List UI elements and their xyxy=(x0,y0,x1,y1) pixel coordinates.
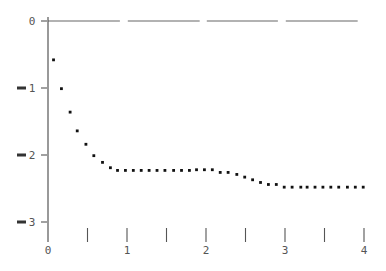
data-point xyxy=(69,111,72,114)
data-point xyxy=(116,169,119,172)
y-tick-label: 2 xyxy=(29,149,36,162)
chart-plot: 0123 01234 xyxy=(0,0,386,271)
data-point xyxy=(92,154,95,157)
data-point xyxy=(172,169,175,172)
data-points xyxy=(52,58,364,188)
minus-sign xyxy=(17,87,26,90)
data-point xyxy=(329,186,332,189)
data-point xyxy=(346,186,349,189)
y-axis-ticks: 0123 xyxy=(17,15,47,229)
y-tick-label: 0 xyxy=(29,15,36,28)
minus-sign xyxy=(17,154,26,157)
data-point xyxy=(109,166,112,169)
data-point xyxy=(362,186,365,189)
data-point xyxy=(211,168,214,171)
data-point xyxy=(76,129,79,132)
data-point xyxy=(283,186,286,189)
x-axis-ticks: 01234 xyxy=(45,228,368,257)
x-tick-label: 1 xyxy=(124,244,131,257)
x-tick-label: 3 xyxy=(282,244,289,257)
y-tick-label: 3 xyxy=(29,216,36,229)
y-tick-label: 1 xyxy=(29,82,36,95)
data-point xyxy=(299,186,302,189)
data-point xyxy=(227,171,230,174)
data-point xyxy=(259,181,262,184)
data-point xyxy=(291,186,294,189)
data-point xyxy=(219,171,222,174)
data-point xyxy=(60,87,63,90)
data-point xyxy=(354,186,357,189)
data-point xyxy=(322,186,325,189)
data-point xyxy=(251,178,254,181)
data-point xyxy=(124,169,127,172)
data-point xyxy=(52,58,55,61)
data-point xyxy=(180,169,183,172)
data-point xyxy=(314,186,317,189)
data-point xyxy=(140,169,143,172)
data-point xyxy=(243,176,246,179)
data-point xyxy=(235,173,238,176)
data-point xyxy=(148,169,151,172)
data-point xyxy=(101,161,104,164)
x-tick-label: 0 xyxy=(45,244,52,257)
data-point xyxy=(275,183,278,186)
data-point xyxy=(195,168,198,171)
data-point xyxy=(164,169,167,172)
data-point xyxy=(132,169,135,172)
x-tick-label: 4 xyxy=(361,244,368,257)
data-point xyxy=(85,143,88,146)
data-point xyxy=(188,169,191,172)
data-point xyxy=(267,183,270,186)
data-point xyxy=(337,186,340,189)
data-point xyxy=(306,186,309,189)
data-point xyxy=(203,168,206,171)
x-tick-label: 2 xyxy=(203,244,210,257)
minus-sign xyxy=(17,221,26,224)
data-point xyxy=(156,169,159,172)
